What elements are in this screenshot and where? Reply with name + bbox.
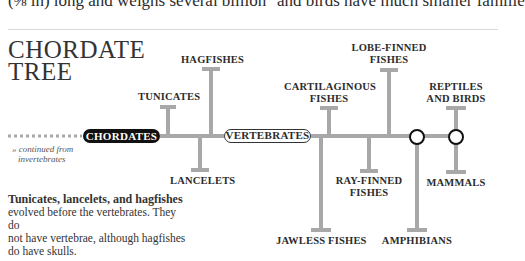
label-line: LOBE-FINNED — [349, 42, 429, 54]
label-lancelets: LANCELETS — [170, 175, 230, 187]
description-line: do have skulls. — [8, 245, 188, 258]
label-line: FISHES — [284, 93, 374, 105]
label-line: CARTILAGINOUS — [284, 81, 374, 93]
label-ray-finned-fishes: RAY-FINNED FISHES — [334, 175, 404, 199]
label-jawless-fishes: JAWLESS FISHES — [276, 235, 366, 247]
node-circle-1 — [410, 130, 424, 144]
description-heading: Tunicates, lancelets, and hagfishes — [8, 192, 183, 206]
label-line: FISHES — [334, 187, 404, 199]
label-line: AND BIRDS — [421, 93, 491, 105]
label-cartilaginous-fishes: CARTILAGINOUS FISHES — [284, 81, 374, 105]
note-line-1: » continued from — [12, 144, 73, 154]
label-amphibians: AMPHIBIANS — [377, 235, 457, 247]
node-chordates: CHORDATES — [83, 129, 160, 143]
label-lobe-finned-fishes: LOBE-FINNED FISHES — [349, 42, 429, 66]
label-hagfishes: HAGFISHES — [181, 54, 241, 66]
description: Tunicates, lancelets, and hagfishes evol… — [8, 193, 188, 258]
label-line: RAY-FINNED — [334, 175, 404, 187]
continued-note: » continued from invertebrates — [12, 144, 73, 164]
note-line-2: invertebrates — [12, 154, 73, 164]
label-line: FISHES — [349, 54, 429, 66]
label-line: REPTILES — [421, 81, 491, 93]
label-tunicates: TUNICATES — [138, 91, 198, 103]
label-mammals: MAMMALS — [421, 177, 491, 189]
label-reptiles-and-birds: REPTILES AND BIRDS — [421, 81, 491, 105]
description-line: not have vertebrae, although hagfishes — [8, 232, 188, 245]
node-vertebrates: VERTEBRATES — [224, 129, 311, 143]
node-circle-2 — [449, 130, 463, 144]
description-line: evolved before the vertebrates. They do — [8, 206, 188, 232]
